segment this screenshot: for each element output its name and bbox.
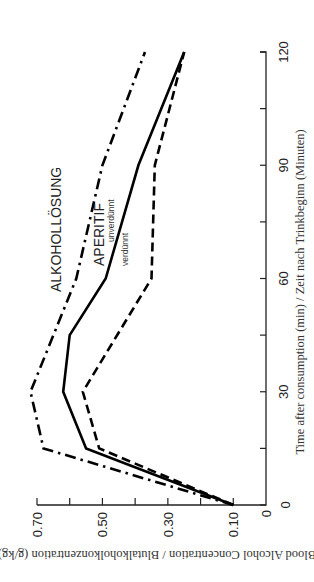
axes: 00.100.300.500.70 0306090120 <box>30 41 293 537</box>
concentration-tick-labels: 00.100.300.500.70 <box>30 510 274 537</box>
time-tick-label: 90 <box>276 158 291 172</box>
label-unverduennt: unverdünnt <box>106 199 116 242</box>
time-tick-label: 60 <box>276 271 291 285</box>
concentration-tick-label: 0.30 <box>161 512 176 537</box>
concentration-ticks <box>37 498 233 505</box>
concentration-tick-label: 0 <box>259 510 274 517</box>
time-tick-label: 120 <box>276 41 291 63</box>
concentration-tick-label: 0.70 <box>30 512 45 537</box>
time-tick-label: 30 <box>276 385 291 399</box>
time-tick-label: 0 <box>278 501 293 508</box>
time-tick-labels: 0306090120 <box>276 41 293 508</box>
time-ticks <box>260 52 266 505</box>
concentration-tick-label: 0.50 <box>95 512 110 537</box>
y-axis-title: Blood Alcohol Concentration / Blutalkoho… <box>0 548 314 562</box>
label-verduennt: verdünnt <box>120 232 130 266</box>
label-aperitif: APERITIF <box>91 203 107 266</box>
bac-line-chart: 00.100.300.500.70 0306090120 ALKOHOLLÖSU… <box>0 0 314 582</box>
label-alkohol: ALKOHOLLÖSUNG <box>47 167 64 292</box>
x-axis-title: Time after consumption (min) / Zeit nach… <box>293 129 307 454</box>
concentration-tick-label: 0.10 <box>226 512 241 537</box>
series-solid-line <box>63 52 233 505</box>
